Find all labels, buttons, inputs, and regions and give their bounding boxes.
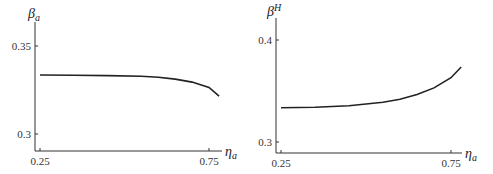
x-axis-label: ηa [225,144,237,161]
chart-beta-a: 0.35 0.3 0.25 0.75 βa ηa [12,6,237,167]
x-tick-label: 0.75 [199,155,219,167]
data-line [40,75,219,96]
y-tick-label: 0.3 [258,136,272,148]
x-tick-label: 0.75 [441,157,461,169]
y-tick-label: 0.3 [17,128,31,140]
charts-canvas: 0.35 0.3 0.25 0.75 βa ηa 0.4 0.3 0.25 0.… [0,0,493,174]
chart-beta-H: 0.4 0.3 0.25 0.75 βH ηa [258,2,477,169]
y-axis-label: βH [266,2,282,19]
y-tick-label: 0.4 [258,34,272,46]
x-tick-label: 0.25 [271,157,291,169]
x-tick-label: 0.25 [30,155,50,167]
y-axis-label: βa [27,6,40,23]
data-line [281,67,461,108]
y-tick-label: 0.35 [12,40,32,52]
x-axis-label: ηa [465,146,477,163]
